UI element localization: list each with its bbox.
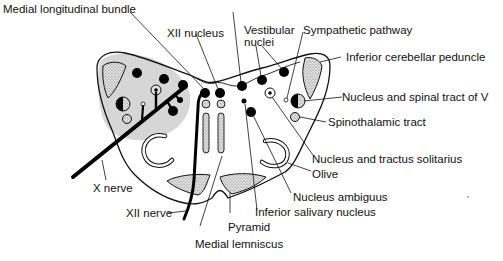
xii-nucleus-left — [215, 88, 225, 98]
sympathetic-pathway-right — [284, 98, 288, 102]
pyramid-left — [167, 174, 210, 195]
pyramid-right — [220, 174, 266, 194]
label-inferior-cerebellar-peduncle: Inferior cerebellar peduncle — [346, 51, 485, 63]
label-medial-lemniscus: Medial lemniscus — [195, 238, 283, 250]
label-inferior-salivary-nucleus: Inferior salivary nucleus — [255, 206, 376, 218]
nucleus-spinal-v-right — [291, 94, 305, 108]
label-vestibular-nuclei-line1: Vestibular — [244, 24, 295, 36]
vestibular-center-2 — [257, 75, 267, 85]
label-pyramid: Pyramid — [228, 221, 270, 233]
label-x-nerve: X nerve — [93, 182, 133, 194]
label-vestibular-nuclei-line2: nuclei — [244, 36, 274, 48]
label-nucleus-ambiguus: Nucleus ambiguus — [293, 191, 388, 203]
medial-lemniscus-left — [203, 113, 209, 153]
label-olive: Olive — [312, 168, 338, 180]
vestibular-center-1 — [237, 81, 247, 91]
nucleus-ambiguus — [246, 107, 256, 117]
inferior-cerebellar-peduncle-right — [303, 57, 322, 99]
spinothalamic-tract-right — [291, 113, 300, 122]
label-nucleus-spinal-tract-v: Nucleus and spinal tract of V — [342, 91, 488, 103]
label-nucleus-tractus-solitarius: Nucleus and tractus solitarius — [312, 153, 462, 165]
label-spinothalamic-tract: Spinothalamic tract — [328, 116, 426, 128]
speck — [467, 196, 469, 198]
inferior-salivary-nucleus — [242, 99, 247, 104]
vestibular-center-3 — [279, 67, 289, 77]
medial-lemniscus-right — [218, 113, 224, 153]
label-medial-longitudinal-bundle: Medial longitudinal bundle — [3, 3, 136, 15]
label-sympathetic-pathway: Sympathetic pathway — [303, 24, 412, 36]
label-xii-nerve: XII nerve — [126, 207, 172, 219]
stippled-circle-right — [217, 100, 225, 108]
vestibular-nucleus-left-2 — [159, 74, 169, 84]
nucleus-spinal-v-left — [116, 97, 130, 111]
spinothalamic-tract-left — [123, 115, 132, 124]
label-xii-nucleus: XII nucleus — [167, 27, 224, 39]
vestibular-nucleus-left-1 — [132, 68, 142, 78]
nucleus-tractus-solitarius-right — [265, 88, 275, 98]
stippled-circle-left — [202, 100, 210, 108]
